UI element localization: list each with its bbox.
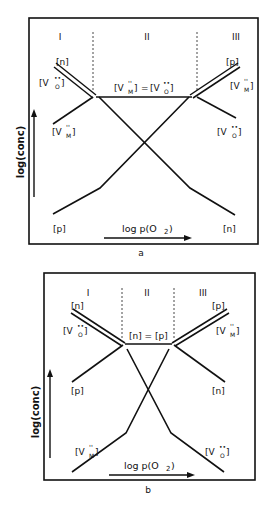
svg-text:]: ] — [84, 326, 88, 336]
svg-text:log p(O: log p(O — [124, 460, 159, 471]
label-vm-left: [V M '' ] — [75, 444, 99, 459]
p-line-ascending — [53, 97, 189, 214]
vm-line-ascending — [72, 349, 169, 472]
svg-text:): ) — [169, 223, 173, 234]
x-arrowhead-icon — [187, 472, 195, 478]
svg-text:[V: [V — [217, 127, 228, 137]
plateau-label-a: [V M '' ] = [V O •• ] — [114, 79, 174, 95]
y-axis-label: log(conc) — [30, 386, 41, 438]
label-vo-right: [V O •• ] — [205, 443, 230, 459]
svg-text:M: M — [230, 331, 235, 338]
label-n-right: [n] — [223, 224, 236, 234]
svg-text:]: ] — [226, 447, 230, 457]
svg-text:]: ] — [134, 83, 138, 93]
svg-text:2: 2 — [164, 228, 168, 236]
svg-text:]: ] — [236, 326, 240, 336]
svg-text:M: M — [244, 86, 249, 93]
region-label-3: III — [232, 32, 240, 42]
label-n-right: [n] — [212, 386, 225, 396]
vm-line-left — [53, 97, 93, 124]
x-axis-label: log p(O 2 ) — [122, 223, 173, 236]
svg-text:]: ] — [61, 78, 65, 88]
svg-text:[V: [V — [205, 447, 216, 457]
svg-text:[V: [V — [114, 83, 125, 93]
svg-text:[V: [V — [39, 78, 50, 88]
x-axis-label: log p(O 2 ) — [124, 460, 175, 473]
defect-diagram: I II III [n] [V O •• ] [V M '' ] — [0, 0, 269, 506]
n-line-descending — [99, 97, 235, 215]
svg-text:): ) — [171, 460, 175, 471]
svg-text:[V: [V — [150, 83, 161, 93]
label-p-left: [p] — [71, 386, 84, 396]
svg-text:'': '' — [89, 444, 93, 452]
svg-text:O: O — [78, 331, 83, 338]
region-label-1: I — [87, 288, 90, 298]
svg-text:[V: [V — [75, 447, 86, 457]
svg-text:]: ] — [72, 127, 76, 137]
svg-text:M: M — [89, 452, 94, 459]
y-arrowhead-icon — [47, 369, 53, 377]
svg-text:'': '' — [230, 323, 234, 331]
label-vm-left: [V M '' ] — [52, 124, 76, 139]
svg-text:O: O — [164, 88, 169, 95]
vo-line-left — [71, 313, 122, 346]
svg-text:]: ] — [95, 447, 99, 457]
svg-text:M: M — [66, 132, 71, 139]
label-vo-left: [V O •• ] — [39, 74, 65, 90]
region-label-1: I — [59, 32, 62, 42]
label-vo-left: [V O •• ] — [63, 322, 88, 338]
svg-text:=: = — [141, 83, 149, 93]
label-vm-right: [V M '' ] — [216, 323, 240, 338]
svg-text:'': '' — [128, 80, 132, 88]
svg-text:O: O — [55, 83, 60, 90]
svg-text:[V: [V — [52, 127, 63, 137]
svg-text:'': '' — [66, 124, 70, 132]
label-n-left: [n] — [56, 57, 69, 67]
x-arrowhead-icon — [184, 235, 192, 241]
y-arrowhead-icon — [31, 109, 37, 117]
label-vm-right: [V M '' ] — [230, 78, 254, 93]
label-p-left: [p] — [53, 224, 66, 234]
svg-text:]: ] — [250, 81, 254, 91]
label-p-right: [p] — [226, 57, 239, 67]
svg-text:2: 2 — [166, 465, 170, 473]
label-p-right: [p] — [212, 301, 225, 311]
svg-text:O: O — [232, 132, 237, 139]
p-line-left — [72, 345, 123, 382]
label-vo-right: [V O •• ] — [217, 123, 242, 139]
svg-text:[V: [V — [230, 81, 241, 91]
label-n-left: [n] — [71, 301, 84, 311]
svg-text:[V: [V — [63, 326, 74, 336]
svg-text:O: O — [220, 452, 225, 459]
n-line-right — [174, 345, 225, 382]
svg-text:log p(O: log p(O — [122, 223, 157, 234]
region-label-2: II — [144, 288, 149, 298]
caption-b: b — [145, 485, 151, 495]
svg-text:'': '' — [244, 78, 248, 86]
vo-line-left — [54, 67, 93, 98]
y-axis-label: log(conc) — [15, 126, 26, 178]
svg-text:M: M — [128, 88, 133, 95]
caption-a: a — [138, 248, 144, 258]
svg-text:[V: [V — [216, 326, 227, 336]
panel-b: I II III [n] [V O •• ] [p] [V M '' — [30, 273, 255, 495]
svg-text:]: ] — [238, 127, 242, 137]
panel-a: I II III [n] [V O •• ] [V M '' ] — [15, 18, 258, 258]
region-label-2: II — [144, 32, 149, 42]
region-label-3: III — [199, 288, 207, 298]
plateau-label-b: [n] = [p] — [129, 331, 168, 341]
vo-line-right — [197, 97, 236, 118]
svg-text:]: ] — [170, 83, 174, 93]
